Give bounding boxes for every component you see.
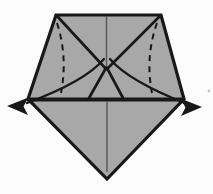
- origami-diagram-canvas: [0, 0, 213, 194]
- scan-speck: [208, 90, 211, 93]
- origami-step-illustration: [0, 0, 213, 194]
- pull-out-arrowhead-left-icon: [7, 98, 29, 116]
- pull-out-arrowhead-right-icon: [181, 99, 203, 117]
